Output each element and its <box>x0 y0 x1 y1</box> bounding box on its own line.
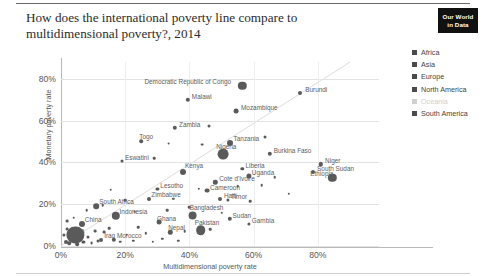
legend[interactable]: AfricaAsiaEuropeNorth AmericaOceaniaSout… <box>412 48 468 121</box>
data-point[interactable] <box>273 176 276 179</box>
data-point[interactable] <box>82 240 85 243</box>
data-point[interactable] <box>263 136 266 139</box>
legend-item-south-america[interactable]: South America <box>412 109 468 118</box>
scatter-plot-area[interactable]: Democratic Republic of CongoBurundiMalaw… <box>61 62 350 246</box>
legend-item-label: Europe <box>421 72 444 81</box>
data-point-label: Haiti <box>224 192 237 199</box>
data-point[interactable] <box>247 222 250 225</box>
data-point-label: Burkina Faso <box>274 147 312 154</box>
data-point[interactable] <box>298 91 302 95</box>
data-point[interactable] <box>218 149 229 160</box>
data-point[interactable] <box>180 169 186 175</box>
data-point[interactable] <box>249 200 252 203</box>
data-point-label: China <box>85 216 102 223</box>
data-point[interactable] <box>207 124 210 127</box>
data-point[interactable] <box>153 157 156 160</box>
data-point-label: Morocco <box>117 232 142 239</box>
top-divider <box>16 3 470 4</box>
data-point[interactable] <box>205 188 210 193</box>
badge-line-1: Our World <box>442 13 473 21</box>
badge-line-2: in Data <box>447 21 468 29</box>
data-point-label: Ghana <box>157 215 176 222</box>
data-point-label: Niger <box>325 157 340 164</box>
legend-item-africa[interactable]: Africa <box>412 48 468 57</box>
data-point[interactable] <box>65 220 68 223</box>
data-point-label: Burundi <box>305 86 327 93</box>
data-point-label: Zambia <box>179 121 200 128</box>
data-point[interactable] <box>209 228 212 231</box>
data-point[interactable] <box>167 142 170 145</box>
legend-item-label: Oceania <box>421 97 448 106</box>
data-point-label: Gambia <box>252 217 274 224</box>
x-tick-label: 60% <box>245 250 262 260</box>
data-point-label: Pakistan <box>195 219 220 226</box>
data-point[interactable] <box>198 187 200 189</box>
data-point-label: Bangladesh <box>190 204 224 211</box>
data-point[interactable] <box>173 126 177 130</box>
data-point[interactable] <box>268 152 272 156</box>
data-point[interactable] <box>201 143 204 146</box>
data-point[interactable] <box>288 193 290 195</box>
data-point[interactable] <box>172 198 174 200</box>
gridline-horizontal <box>61 121 379 122</box>
data-point[interactable] <box>241 167 244 170</box>
data-point-label: Democratic Republic of Congo <box>144 78 231 85</box>
data-point[interactable] <box>119 241 122 244</box>
data-point[interactable] <box>87 235 90 238</box>
data-point[interactable] <box>196 226 206 236</box>
data-point[interactable] <box>161 237 163 239</box>
data-point[interactable] <box>218 197 222 201</box>
data-point[interactable] <box>63 233 66 236</box>
chart-page: How does the international poverty line … <box>0 0 486 276</box>
data-point-label: Malawi <box>192 93 212 100</box>
data-point-label: Lesotho <box>160 182 183 189</box>
data-point[interactable] <box>121 160 124 163</box>
data-point-label: Mozambique <box>241 104 278 111</box>
data-point[interactable] <box>137 226 140 229</box>
data-point[interactable] <box>132 240 134 242</box>
legend-swatch-icon <box>412 111 417 116</box>
bottom-divider <box>16 273 470 274</box>
data-point[interactable] <box>234 109 239 114</box>
data-point[interactable] <box>238 82 246 90</box>
data-point[interactable] <box>67 242 71 246</box>
data-point[interactable] <box>177 240 179 242</box>
data-point-label: Liberia <box>245 162 264 169</box>
data-point[interactable] <box>166 209 169 212</box>
data-point[interactable] <box>112 238 116 242</box>
our-world-in-data-logo[interactable]: Our World in Data <box>438 8 478 33</box>
data-point-label: Zimbabwe <box>151 191 180 198</box>
data-point-label: Ethiopia <box>310 170 333 177</box>
data-point-label: South Africa <box>99 198 133 205</box>
legend-item-label: Africa <box>421 48 439 57</box>
legend-item-europe[interactable]: Europe <box>412 72 468 81</box>
legend-item-oceania[interactable]: Oceania <box>412 97 468 106</box>
legend-item-label: Asia <box>421 60 435 69</box>
x-tick-label: 80% <box>309 250 326 260</box>
data-point[interactable] <box>108 227 111 230</box>
data-point[interactable] <box>151 241 153 243</box>
legend-item-north-america[interactable]: North America <box>412 85 468 94</box>
data-point[interactable] <box>111 211 119 219</box>
data-point[interactable] <box>227 217 231 221</box>
legend-swatch-icon <box>412 50 417 55</box>
data-point-label: Indonesia <box>120 208 148 215</box>
data-point[interactable] <box>73 216 76 219</box>
data-point[interactable] <box>99 238 103 242</box>
data-point-label: Sudan <box>233 212 251 219</box>
data-point[interactable] <box>90 241 93 244</box>
data-point[interactable] <box>85 209 88 212</box>
legend-item-asia[interactable]: Asia <box>412 60 468 69</box>
data-point[interactable] <box>94 203 100 209</box>
data-point-label: Nigeria <box>216 143 236 150</box>
data-point[interactable] <box>109 188 112 191</box>
data-point-label: Cote d'Ivoire <box>219 175 255 182</box>
data-point[interactable] <box>156 187 159 190</box>
data-point[interactable] <box>260 184 263 187</box>
data-point[interactable] <box>93 230 96 233</box>
data-point-label: Kenya <box>185 162 203 169</box>
data-point[interactable] <box>220 211 222 213</box>
data-point[interactable] <box>145 232 147 234</box>
x-axis-label: Multidimensional poverty rate <box>0 262 420 271</box>
y-axis-label: Monetary poverty rate <box>44 65 53 185</box>
